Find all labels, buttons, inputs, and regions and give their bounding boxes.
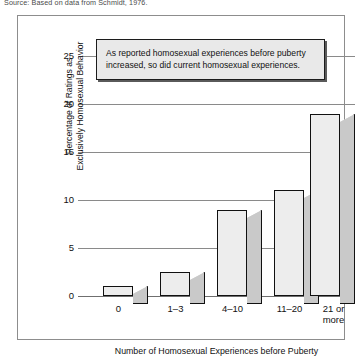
bar-4-front — [310, 114, 340, 296]
bar-4-side — [340, 114, 355, 304]
xtick-label-4-line1: 21 or — [311, 304, 355, 315]
bar-2-side — [247, 210, 262, 304]
bar-0-side — [133, 286, 148, 304]
ytick-label-0: 0 — [48, 290, 74, 301]
xtick-label-2: 4–10 — [210, 304, 255, 315]
bar-2-front — [217, 210, 247, 296]
xtick-label-2-line1: 4–10 — [210, 304, 255, 315]
callout-line1: As reported homosexual experiences befor… — [106, 47, 315, 59]
bar-3 — [274, 190, 304, 296]
xtick-label-4-line2: more — [311, 315, 355, 326]
bar-0-front — [103, 286, 133, 296]
xtick-label-3: 11–20 — [267, 304, 312, 315]
callout-line2: increased, so did current homosexual exp… — [106, 59, 315, 71]
bar-series — [78, 56, 355, 296]
bar-2 — [217, 210, 247, 296]
bar-1-side — [190, 272, 205, 304]
xtick-label-0: 0 — [96, 304, 141, 315]
bar-0 — [103, 286, 133, 296]
bar-3-front — [274, 190, 304, 296]
bar-4 — [310, 114, 340, 296]
figure-frame: 25 20 15 10 5 0 Percentage of Ratings as… — [17, 15, 345, 340]
bar-1-front — [160, 272, 190, 296]
xtick-label-1: 1–3 — [153, 304, 198, 315]
xtick-label-1-line1: 1–3 — [153, 304, 198, 315]
ytick-label-5: 5 — [48, 242, 74, 253]
xtick-label-0-line1: 0 — [96, 304, 141, 315]
x-axis-title: Number of Homosexual Experiences before … — [78, 346, 355, 356]
plot-area: 25 20 15 10 5 0 Percentage of Ratings as… — [78, 56, 355, 296]
xtick-label-4: 21 or more — [311, 304, 355, 325]
callout-box: As reported homosexual experiences befor… — [96, 39, 325, 80]
bar-1 — [160, 272, 190, 296]
xtick-label-3-line1: 11–20 — [267, 304, 312, 315]
y-axis-title-line1: Percentage of Ratings as — [64, 6, 75, 206]
